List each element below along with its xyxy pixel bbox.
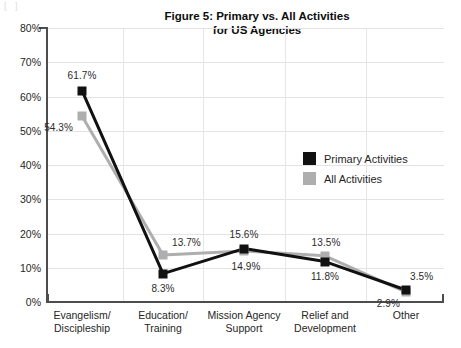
y-tick-label: 80% xyxy=(0,22,41,34)
y-tick-label: 20% xyxy=(0,228,41,240)
gridline-horizontal xyxy=(47,97,444,98)
data-point-label: 2.9% xyxy=(377,298,400,309)
x-category-label-line: Training xyxy=(138,322,188,335)
legend-item: Primary Activities xyxy=(303,152,408,165)
data-point-label: 3.5% xyxy=(410,271,433,282)
legend-label: All Activities xyxy=(324,173,382,185)
data-point-marker xyxy=(78,86,87,95)
data-point-marker xyxy=(321,257,330,266)
y-axis-line xyxy=(46,27,48,303)
y-tick-label: 40% xyxy=(0,159,41,171)
legend-swatch-icon xyxy=(303,172,316,185)
data-point-label: 13.5% xyxy=(312,237,341,248)
x-category-label: Relief andDevelopment xyxy=(294,309,356,334)
chart-legend: Primary ActivitiesAll Activities xyxy=(303,152,408,192)
data-point-marker xyxy=(402,286,411,295)
data-point-label: 61.7% xyxy=(68,70,97,81)
chart-figure: [ ] Figure 5: Primary vs. All Activities… xyxy=(0,0,461,348)
data-point-marker xyxy=(159,251,168,260)
data-point-label: 11.8% xyxy=(311,271,339,282)
scan-artifact: [ ] xyxy=(4,1,38,9)
x-category-label-line: Education/ xyxy=(138,309,188,322)
legend-label: Primary Activities xyxy=(324,153,408,165)
data-point-label: 13.7% xyxy=(172,237,201,248)
data-point-marker xyxy=(240,244,249,253)
gridline-horizontal xyxy=(47,131,444,132)
data-point-label: 8.3% xyxy=(151,283,174,294)
data-point-marker xyxy=(159,269,168,278)
legend-item: All Activities xyxy=(303,172,408,185)
x-category-label-line: Support xyxy=(208,322,281,335)
gridline-horizontal xyxy=(47,62,444,63)
y-tick-label: 60% xyxy=(0,91,41,103)
x-category-label-line: Other xyxy=(393,309,419,322)
gridline-vertical xyxy=(123,28,124,302)
x-axis-left-tick xyxy=(47,294,49,303)
data-point-label: 14.9% xyxy=(232,261,261,272)
chart-title-line-1: Figure 5: Primary vs. All Activities xyxy=(128,9,386,23)
data-point-label: 15.6% xyxy=(230,229,259,240)
gridline-vertical xyxy=(285,28,286,302)
data-point-label: 54.3% xyxy=(44,122,73,133)
legend-swatch-icon xyxy=(303,152,316,165)
x-category-label: Evangelism/Discipleship xyxy=(53,309,110,334)
x-axis-right-tick xyxy=(442,294,444,303)
x-category-label-line: Development xyxy=(294,322,356,335)
x-category-label-line: Discipleship xyxy=(53,322,110,335)
x-category-label-line: Evangelism/ xyxy=(53,309,110,322)
y-tick-label: 50% xyxy=(0,125,41,137)
x-category-label-line: Relief and xyxy=(294,309,356,322)
data-point-marker xyxy=(78,112,87,121)
x-category-label: Education/Training xyxy=(138,309,188,334)
x-category-label-line: Mission Agency xyxy=(208,309,281,322)
y-tick-label: 70% xyxy=(0,56,41,68)
gridline-horizontal xyxy=(47,199,444,200)
y-tick-label: 30% xyxy=(0,193,41,205)
x-category-label: Mission AgencySupport xyxy=(208,309,281,334)
y-tick-label: 0% xyxy=(0,296,41,308)
x-category-label: Other xyxy=(393,309,419,322)
gridline-vertical xyxy=(203,28,204,302)
gridline-horizontal xyxy=(47,28,444,29)
y-tick-label: 10% xyxy=(0,262,41,274)
